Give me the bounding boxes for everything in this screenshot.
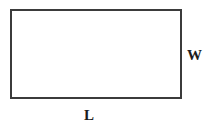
diagram-canvas: W L <box>0 0 211 129</box>
rectangle-shape <box>10 9 182 99</box>
width-label: W <box>187 48 202 63</box>
length-label: L <box>84 108 94 123</box>
